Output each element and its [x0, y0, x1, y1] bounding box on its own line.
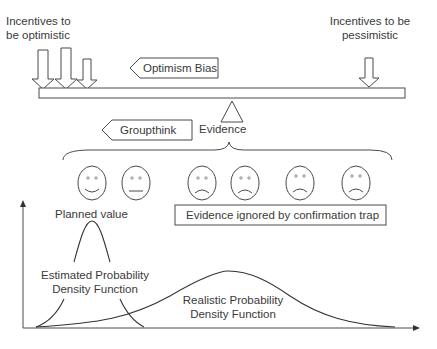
realistic-pdf-label: Realistic Probability Density Function — [168, 293, 298, 321]
x-axis-arrow-icon — [413, 325, 420, 331]
pessimistic-line-1: Incentives to be — [315, 14, 425, 28]
pessimistic-line-2: pessimistic — [315, 28, 425, 42]
estimated-pdf-label: Estimated Probability Density Function — [30, 268, 160, 296]
down-arrow-icon — [55, 48, 77, 89]
happy-face-icon — [78, 166, 106, 200]
realistic-pdf-line-1: Realistic Probability — [168, 293, 298, 307]
estimated-pdf-curve-lower — [36, 299, 64, 327]
pessimistic-incentives-label: Incentives to be pessimistic — [315, 14, 425, 42]
realistic-pdf-line-2: Density Function — [168, 307, 298, 321]
sad-face-icon — [342, 166, 370, 200]
optimism-bias-label: Optimism Bias — [143, 61, 217, 75]
down-arrow-icon — [32, 50, 54, 89]
estimated-pdf-line-1: Estimated Probability — [30, 268, 160, 282]
estimated-pdf-curve-upper — [74, 221, 110, 262]
fulcrum-triangle-icon — [221, 101, 243, 122]
confirmation-trap-label: Evidence ignored by confirmation trap — [186, 208, 379, 222]
optimistic-line-1: Incentives to — [6, 14, 71, 28]
y-axis-arrow-icon — [20, 200, 26, 207]
evidence-label: Evidence — [199, 122, 246, 136]
sad-face-icon — [286, 166, 314, 200]
planned-value-label: Planned value — [55, 207, 128, 221]
down-arrow-icon — [77, 59, 97, 89]
evidence-brace — [63, 142, 392, 160]
neutral-face-icon — [122, 166, 150, 200]
groupthink-label: Groupthink — [120, 123, 176, 137]
estimated-pdf-line-2: Density Function — [30, 282, 160, 296]
sad-face-icon — [231, 166, 259, 200]
optimistic-incentives-label: Incentives to be optimistic — [6, 14, 71, 42]
down-arrow-icon — [359, 58, 379, 87]
sad-face-icon — [188, 166, 216, 200]
optimistic-line-2: be optimistic — [6, 28, 71, 42]
balance-beam — [39, 88, 405, 98]
